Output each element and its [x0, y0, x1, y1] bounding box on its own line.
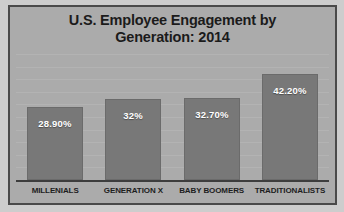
chart-title: U.S. Employee Engagement by Generation: …: [16, 12, 329, 46]
chart-figure: U.S. Employee Engagement by Generation: …: [0, 0, 344, 212]
chart-frame: U.S. Employee Engagement by Generation: …: [8, 5, 337, 205]
chart-title-line-2: Generation: 2014: [16, 29, 329, 46]
gridline: [16, 67, 329, 68]
x-axis-line: [16, 180, 329, 182]
x-axis-label: MILLENIALS: [16, 186, 94, 195]
gridline: [16, 54, 329, 55]
bar-value-label: 28.90%: [27, 118, 83, 129]
x-axis-label: GENERATION X: [94, 186, 172, 195]
chart-title-line-1: U.S. Employee Engagement by: [69, 12, 276, 28]
x-axis-label: TRADITIONALISTS: [251, 186, 329, 195]
x-axis-labels: MILLENIALSGENERATION XBABY BOOMERSTRADIT…: [16, 186, 329, 202]
x-axis-label: BABY BOOMERS: [173, 186, 251, 195]
bar-value-label: 32.70%: [184, 109, 240, 120]
bar-value-label: 42.20%: [262, 85, 318, 96]
bar-value-label: 32%: [105, 110, 161, 121]
